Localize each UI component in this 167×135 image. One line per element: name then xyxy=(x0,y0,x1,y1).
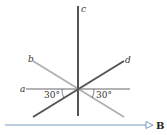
field-arrowhead-icon xyxy=(146,122,153,129)
angle-label-right: 30° xyxy=(96,90,112,100)
label-c: c xyxy=(81,4,86,14)
angle-label-left: 30° xyxy=(44,90,60,100)
label-b: b xyxy=(28,54,34,64)
diagram: a b c d 30° 30° B xyxy=(0,0,167,135)
field-label-B: B xyxy=(156,120,164,131)
label-a: a xyxy=(20,84,25,94)
label-d: d xyxy=(125,55,131,65)
angle-arc-left xyxy=(62,89,64,98)
